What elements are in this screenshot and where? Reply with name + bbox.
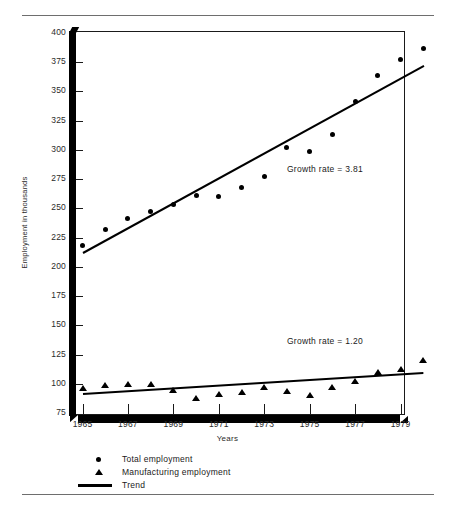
y-tick	[76, 150, 83, 151]
line-marker-icon	[78, 479, 122, 491]
x-tick-label: 1973	[244, 419, 284, 429]
x-tick	[355, 404, 356, 415]
x-tick	[401, 404, 402, 415]
y-tick-label: 325	[36, 115, 66, 125]
x-tick-label: 1969	[153, 419, 193, 429]
top-divider-rule	[22, 15, 434, 16]
y-tick-label: 400	[36, 27, 66, 37]
y-tick-label: 200	[36, 261, 66, 271]
triangle-data-point	[238, 389, 246, 395]
chart-legend: Total employment Manufacturing employmen…	[78, 452, 231, 491]
triangle-data-point	[147, 381, 155, 387]
legend-item-trend: Trend	[78, 478, 231, 491]
triangle-data-point	[374, 369, 382, 375]
y-tick-label: 150	[36, 319, 66, 329]
triangle-data-point	[328, 384, 336, 390]
x-tick-label: 1965	[63, 419, 103, 429]
y-tick	[76, 62, 83, 63]
circle-data-point	[307, 149, 312, 154]
circle-marker-icon	[78, 453, 122, 465]
circle-data-point	[239, 185, 244, 190]
x-tick-label: 1967	[108, 419, 148, 429]
x-tick-label: 1971	[199, 419, 239, 429]
x-tick	[264, 404, 265, 415]
y-tick-label: 375	[36, 56, 66, 66]
y-tick-label: 75	[36, 407, 66, 417]
circle-data-point	[194, 193, 199, 198]
y-axis-spine	[69, 31, 76, 416]
growth-rate-annotation: Growth rate = 3.81	[287, 164, 363, 174]
y-tick	[76, 355, 83, 356]
y-tick	[76, 296, 83, 297]
y-tick-label: 250	[36, 202, 66, 212]
y-tick-label: 350	[36, 85, 66, 95]
y-tick	[76, 238, 83, 239]
triangle-data-point	[419, 357, 427, 363]
circle-data-point	[103, 227, 108, 232]
y-tick-label: 225	[36, 232, 66, 242]
y-tick	[76, 91, 83, 92]
y-tick	[76, 325, 83, 326]
y-tick	[76, 267, 83, 268]
y-tick-label: 175	[36, 290, 66, 300]
triangle-data-point	[79, 385, 87, 391]
y-tick	[76, 179, 83, 180]
triangle-data-point	[306, 392, 314, 398]
y-tick-label: 300	[36, 144, 66, 154]
y-tick-label: 100	[36, 378, 66, 388]
legend-label: Total employment	[122, 454, 193, 464]
x-tick	[128, 404, 129, 415]
legend-item-total-employment: Total employment	[78, 452, 231, 465]
x-tick	[310, 404, 311, 415]
x-tick	[219, 404, 220, 415]
x-tick-label: 1977	[335, 419, 375, 429]
y-tick	[76, 121, 83, 122]
plot-frame	[75, 31, 405, 415]
circle-data-point	[421, 46, 426, 51]
x-tick-label: 1979	[381, 419, 421, 429]
x-tick	[83, 404, 84, 415]
circle-data-point	[375, 73, 380, 78]
chart-page: Employment in thousands Years 4003753503…	[0, 0, 455, 509]
x-tick	[173, 404, 174, 415]
y-tick-label: 275	[36, 173, 66, 183]
triangle-data-point	[101, 382, 109, 388]
triangle-data-point	[169, 387, 177, 393]
legend-label: Manufacturing employment	[122, 467, 231, 477]
triangle-marker-icon	[78, 466, 122, 478]
y-tick	[76, 208, 83, 209]
y-axis-title: Employment in thousands	[20, 163, 29, 283]
triangle-data-point	[124, 381, 132, 387]
y-tick-label: 125	[36, 349, 66, 359]
legend-label: Trend	[122, 480, 145, 490]
triangle-data-point	[351, 378, 359, 384]
triangle-data-point	[397, 366, 405, 372]
triangle-data-point	[283, 388, 291, 394]
triangle-data-point	[192, 395, 200, 401]
triangle-data-point	[215, 391, 223, 397]
x-tick-label: 1975	[290, 419, 330, 429]
growth-rate-annotation: Growth rate = 1.20	[287, 336, 363, 346]
x-axis-title: Years	[0, 434, 455, 443]
bottom-divider-rule	[22, 494, 434, 495]
triangle-data-point	[260, 384, 268, 390]
legend-item-manufacturing-employment: Manufacturing employment	[78, 465, 231, 478]
